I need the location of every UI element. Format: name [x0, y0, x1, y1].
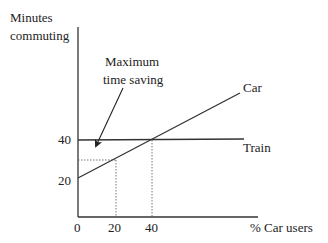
annotation-label-line1: Maximum	[105, 54, 159, 69]
x-tick-0: 0	[74, 220, 81, 235]
x-axis-label: % Car users	[250, 220, 313, 235]
x-tick-20: 20	[108, 220, 121, 235]
car-series-label: Car	[243, 80, 262, 95]
y-axis-label-line1: Minutes	[10, 10, 53, 25]
y-axis-label-line2: commuting	[10, 28, 70, 43]
annotation-label-line2: time saving	[103, 72, 164, 87]
annotation-arrow-icon	[96, 88, 123, 146]
train-series-label: Train	[243, 140, 271, 155]
train-line	[78, 139, 244, 140]
y-tick-40: 40	[58, 132, 71, 147]
x-tick-40: 40	[145, 220, 158, 235]
car-line	[78, 93, 240, 178]
chart-canvas: Minutes commuting Maximum time saving Ca…	[0, 0, 328, 243]
y-tick-20: 20	[58, 173, 71, 188]
